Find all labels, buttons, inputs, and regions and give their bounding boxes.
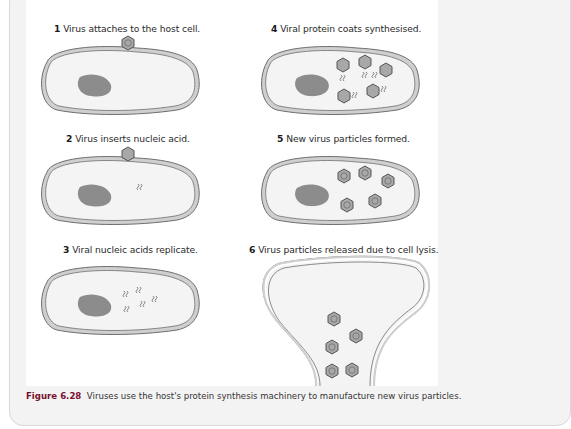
figure-number: Figure 6.28	[26, 391, 81, 401]
cell-step-5	[262, 157, 420, 225]
figure-caption: Figure 6.28 Viruses use the host's prote…	[26, 391, 461, 401]
cell-step-2	[42, 147, 200, 225]
cell-step-4	[262, 47, 420, 115]
cell-step-6-lysed	[263, 256, 429, 386]
cell-step-1	[42, 36, 200, 115]
cell-step-3	[42, 267, 200, 335]
